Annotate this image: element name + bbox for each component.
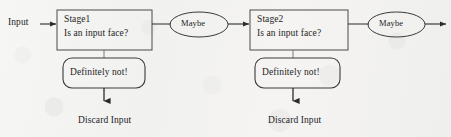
stage1-discard-label: Discard Input — [78, 115, 131, 125]
stage1-reject-label: Definitely not! — [70, 67, 128, 77]
stage2-question: Is an input face? — [257, 28, 321, 38]
flowchart-diagram: Input Stage1 Is an input face? Maybe Def… — [0, 0, 451, 137]
stage1-maybe-label: Maybe — [181, 19, 205, 28]
input-label: Input — [8, 17, 29, 27]
stage1-question: Is an input face? — [64, 28, 128, 38]
stage2-discard-label: Discard Input — [268, 115, 321, 125]
stage2-maybe-label: Maybe — [379, 19, 403, 28]
stage1-title: Stage1 — [64, 14, 90, 24]
stage2-reject-label: Definitely not! — [262, 67, 320, 77]
stage2-title: Stage2 — [257, 14, 283, 24]
